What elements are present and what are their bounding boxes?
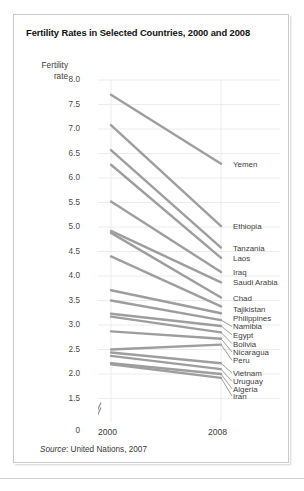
series-label: Philippines: [233, 314, 271, 323]
series-label: Peru: [233, 356, 250, 365]
series-labels: YemenEthiopiaTanzaniaLaosIraqSaudi Arabi…: [233, 66, 303, 416]
source-label: Source: [40, 445, 66, 454]
y-tick-label: 3.0: [34, 320, 80, 329]
series-label: Saudi Arabia: [233, 278, 278, 287]
x-tick-label: 2000: [98, 427, 117, 437]
y-tick-label: 2.5: [34, 345, 80, 354]
chart-title: Fertility Rates in Selected Countries, 2…: [26, 27, 282, 38]
y-tick-label: 8.0: [34, 75, 80, 84]
screenshot-root: Fertility Rates in Selected Countries, 2…: [0, 0, 304, 491]
chart-card: Fertility Rates in Selected Countries, 2…: [13, 14, 289, 463]
y-tick-label: 4.5: [34, 247, 80, 256]
series-label: Ethiopia: [233, 222, 262, 231]
series-label: Tajikistan: [233, 305, 265, 314]
y-tick-label: 5.0: [34, 222, 80, 231]
y-tick-label: 4.0: [34, 271, 80, 280]
source-text: : United Nations, 2007: [66, 445, 147, 454]
y-tick-label: 5.5: [34, 198, 80, 207]
series-label: Yemen: [233, 160, 257, 169]
series-label: Egypt: [233, 331, 253, 340]
source-note: Source: United Nations, 2007: [40, 445, 147, 454]
series-label: Chad: [233, 294, 252, 303]
x-tick-label: 2008: [208, 427, 227, 437]
bottom-divider: [0, 478, 304, 479]
y-tick-label: 6.0: [34, 173, 80, 182]
y-tick-label: 6.5: [34, 149, 80, 158]
y-tick-label: 7.0: [34, 124, 80, 133]
y-axis-tick-labels: 8.07.57.06.56.05.55.04.54.03.53.02.52.01…: [34, 66, 80, 446]
series-label: Laos: [233, 254, 250, 263]
y-tick-label: 7.5: [34, 100, 80, 109]
y-tick-label: 2.0: [34, 369, 80, 378]
x-axis-tick-labels: 20002008: [98, 427, 288, 443]
y-tick-label: 3.5: [34, 296, 80, 305]
series-label: Tanzania: [233, 244, 265, 253]
y-tick-label: 0: [34, 426, 80, 435]
y-tick-label: 1.5: [34, 394, 80, 403]
series-label: Iraq: [233, 268, 247, 277]
series-label: Iran: [233, 392, 247, 401]
